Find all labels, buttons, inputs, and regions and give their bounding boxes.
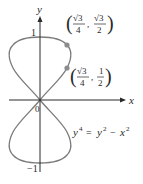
y-axis-arrow-icon (38, 16, 43, 22)
p2-y-den: 2 (98, 78, 103, 88)
paren-open: ( (66, 12, 73, 35)
p2-x-num: √3 (77, 66, 87, 76)
eq-lhs-exp: 4 (79, 125, 83, 133)
p2-x-den: 4 (80, 78, 85, 88)
lemniscate-figure: x y 1 0 −1 ( √3 4 , √3 2 ) ( √3 4 , 1 2 … (0, 0, 143, 184)
point-label-2: ( √3 4 , 1 2 ) (70, 65, 112, 88)
paren-close: ) (105, 65, 112, 88)
paren-open: ( (70, 65, 77, 88)
point-marker-1 (64, 42, 69, 47)
tick-label-top: 1 (31, 27, 36, 38)
eq-rhs1-exp: 2 (103, 125, 107, 133)
eq-minus: − (110, 127, 116, 138)
tick-label-bottom: −1 (27, 163, 38, 174)
eq-rhs1-base: y (96, 126, 102, 138)
x-axis-label: x (128, 94, 134, 106)
eq-lhs-base: y (72, 126, 78, 138)
paren-close: ) (107, 12, 114, 35)
comma: , (91, 72, 93, 82)
curve-equation: y 4 = y 2 − x 2 (72, 125, 130, 138)
p1-y-num: √3 (94, 13, 104, 23)
eq-rhs2-base: x (119, 126, 125, 138)
p1-y-den: 2 (97, 25, 102, 35)
p2-y-num: 1 (99, 66, 104, 76)
comma: , (87, 19, 89, 29)
eq-equals: = (86, 127, 92, 138)
x-axis-arrow-icon (120, 98, 126, 103)
point-marker-2 (64, 65, 69, 70)
y-axis-label: y (36, 3, 42, 15)
p1-x-den: 4 (76, 25, 81, 35)
eq-rhs2-exp: 2 (126, 125, 130, 133)
p1-x-num: √3 (73, 13, 83, 23)
origin-label: 0 (35, 104, 40, 114)
point-label-1: ( √3 4 , √3 2 ) (66, 12, 114, 35)
